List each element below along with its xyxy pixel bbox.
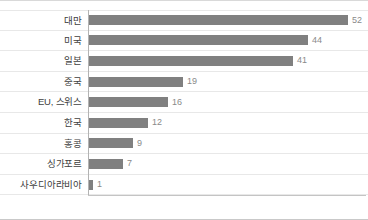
plot-area: 대만 52 미국 44 일본 41 중국 19 [0,10,368,196]
bar-track-7: 7 [88,154,368,174]
bar-4 [88,97,168,107]
bar-track-1: 44 [88,31,368,51]
table-row: 한국 12 [0,113,368,134]
bar-track-2: 41 [88,51,368,71]
bar-5 [88,118,148,128]
category-label-3: 중국 [0,77,88,87]
bar-7 [88,159,123,169]
bar-track-8: 1 [88,175,368,195]
category-label-0: 대만 [0,16,88,26]
table-row: 중국 19 [0,72,368,93]
category-label-2: 일본 [0,56,88,66]
value-label-1: 44 [308,36,322,45]
category-label-1: 미국 [0,36,88,46]
category-label-6: 홍콩 [0,139,88,149]
bar-0 [88,15,348,25]
value-label-2: 41 [293,56,307,65]
value-axis-line [88,10,89,196]
axis-baseline [88,195,366,196]
bar-3 [88,77,183,87]
bar-6 [88,138,133,148]
category-label-5: 한국 [0,118,88,128]
bar-track-0: 52 [88,11,368,30]
bar-track-4: 16 [88,92,368,112]
value-label-4: 16 [168,98,182,107]
bar-2 [88,56,293,66]
category-label-8: 사우디아라비아 [0,180,88,190]
value-label-5: 12 [148,118,162,127]
bar-chart-frame: 대만 52 미국 44 일본 41 중국 19 [0,0,368,220]
table-row: EU, 스위스 16 [0,92,368,113]
bar-1 [88,35,308,45]
table-row: 사우디아라비아 1 [0,175,368,196]
table-row: 홍콩 9 [0,134,368,155]
table-row: 싱가포르 7 [0,154,368,175]
bar-track-3: 19 [88,72,368,92]
table-row: 일본 41 [0,51,368,72]
bar-track-5: 12 [88,113,368,133]
value-label-6: 9 [133,139,142,148]
table-row: 미국 44 [0,31,368,52]
category-label-7: 싱가포르 [0,159,88,169]
value-label-7: 7 [123,159,132,168]
bar-track-6: 9 [88,134,368,154]
table-row: 대만 52 [0,10,368,31]
value-label-0: 52 [348,16,362,25]
value-label-8: 1 [93,180,102,189]
category-label-4: EU, 스위스 [0,97,88,107]
value-label-3: 19 [183,77,197,86]
